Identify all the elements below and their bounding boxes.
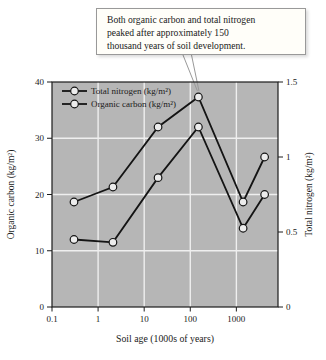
right-tick-label: 1.5 (286, 77, 298, 87)
data-point-marker-total-nitrogen (109, 183, 117, 191)
annotation-callout: Both organic carbon and total nitrogen p… (96, 8, 306, 55)
x-tick-label: 1000 (227, 314, 246, 324)
data-point-marker-total-nitrogen (195, 93, 203, 101)
left-axis-title: Organic carbon (kg/m²) (6, 150, 17, 240)
legend-marker-total-nitrogen (71, 87, 79, 95)
data-point-marker-organic-carbon (261, 191, 269, 199)
data-point-marker-organic-carbon (109, 239, 117, 247)
left-tick-label: 30 (35, 133, 45, 143)
x-tick-label: 1 (96, 314, 101, 324)
right-tick-label: 0 (286, 302, 291, 312)
x-tick-label: 0.1 (46, 314, 57, 324)
left-tick-label: 20 (35, 190, 45, 200)
right-tick-label: 1 (286, 152, 291, 162)
data-point-marker-total-nitrogen (239, 198, 247, 206)
data-point-marker-organic-carbon (70, 236, 78, 244)
figure-canvas: 0.1110100100001020304000.511.5Total nitr… (0, 0, 326, 360)
legend-label-total-nitrogen: Total nitrogen (kg/m²) (91, 86, 171, 96)
data-point-marker-total-nitrogen (70, 198, 78, 206)
data-point-marker-total-nitrogen (261, 153, 269, 161)
data-point-marker-organic-carbon (195, 123, 203, 131)
left-tick-label: 0 (40, 302, 45, 312)
data-point-marker-organic-carbon (154, 174, 162, 182)
annotation-text-line: peaked after approximately 150 (107, 26, 299, 39)
data-point-marker-total-nitrogen (154, 123, 162, 131)
x-axis-title: Soil age (1000s of years) (116, 333, 214, 345)
left-tick-label: 40 (35, 77, 45, 87)
annotation-text-line: thousand years of soil development. (107, 39, 299, 52)
x-tick-label: 100 (184, 314, 198, 324)
right-axis-title: Total nitrogen (kg/m²) (304, 152, 315, 237)
right-tick-label: 0.5 (286, 227, 298, 237)
legend-label-organic-carbon: Organic carbon (kg/m²) (91, 99, 176, 109)
legend-marker-organic-carbon (71, 100, 79, 108)
left-tick-label: 10 (35, 246, 45, 256)
data-point-marker-organic-carbon (239, 224, 247, 232)
x-tick-label: 10 (140, 314, 150, 324)
annotation-text-line: Both organic carbon and total nitrogen (107, 13, 299, 26)
